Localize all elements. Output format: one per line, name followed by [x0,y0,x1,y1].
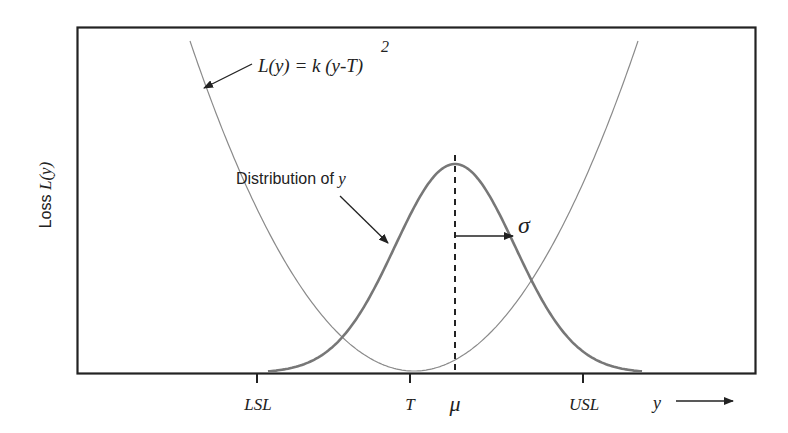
loss-formula-arrow [204,64,252,88]
y-axis-label-var: L(y) [36,161,55,191]
distribution-label-var: y [336,169,346,188]
tick-label-lsl: LSL [243,395,271,414]
y-axis-label-prefix: Loss [37,190,54,228]
distribution-label: Distribution of y [236,169,346,188]
loss-formula-exponent: 2 [381,38,389,55]
distribution-arrow [340,196,388,243]
x-axis-var-label: y [651,393,661,413]
quadratic-loss-diagram: σ L(y) = k (y-T) 2 Distribution of y Los… [0,0,788,433]
y-axis-label: Loss L(y) [36,161,55,228]
loss-formula-label: L(y) = k (y-T) [257,55,363,77]
distribution-label-prefix: Distribution of [236,170,338,187]
mu-label: μ [448,391,460,416]
sigma-label: σ [518,212,531,238]
tick-label-target: T [405,395,416,414]
tick-label-usl: USL [569,395,599,414]
